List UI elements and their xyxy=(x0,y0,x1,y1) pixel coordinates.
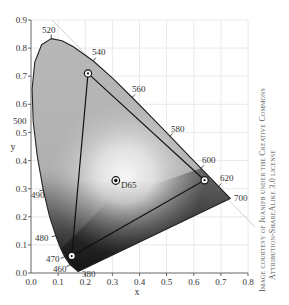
y-tick-0.7: 0.7 xyxy=(16,71,28,81)
y-tick-0.4: 0.4 xyxy=(16,156,28,166)
wavelength-label-490: 490 xyxy=(31,190,45,200)
y-axis-label: y xyxy=(11,141,16,152)
wavelength-label-520: 520 xyxy=(42,25,56,35)
chromaticity-diagram: D65 520 540 560 580 600 620 700 500 490 … xyxy=(0,0,289,305)
x-tick-0.6: 0.6 xyxy=(188,277,200,287)
y-tick-0.2: 0.2 xyxy=(16,212,27,222)
x-tick-0.2: 0.2 xyxy=(80,277,91,287)
x-tick-0.7: 0.7 xyxy=(215,277,227,287)
y-tick-0.1: 0.1 xyxy=(16,240,27,250)
x-axis-label: x xyxy=(135,286,140,297)
x-tick-0.3: 0.3 xyxy=(107,277,119,287)
green-primary-marker xyxy=(84,70,91,77)
d65-label: D65 xyxy=(121,180,137,190)
wavelength-label-460: 460 xyxy=(53,264,67,274)
y-tick-0.5: 0.5 xyxy=(16,128,28,138)
y-tick-0.9: 0.9 xyxy=(16,15,28,25)
blue-primary-marker xyxy=(68,253,75,260)
y-tick-0.8: 0.8 xyxy=(16,43,28,53)
x-axis-tick-labels: 0.0 0.1 0.2 0.3 0.4 0.5 0.6 0.7 0.8 xyxy=(25,277,254,287)
x-tick-0.5: 0.5 xyxy=(161,277,173,287)
image-credit: Image courtesy of Juanifb under the Crea… xyxy=(258,52,278,292)
wavelength-label-560: 560 xyxy=(132,84,146,94)
credit-line-2: Attribution-ShareAlike 3.0 license xyxy=(268,52,278,292)
y-tick-0.3: 0.3 xyxy=(16,184,28,194)
wavelength-label-480: 480 xyxy=(35,233,49,243)
wavelength-label-500: 500 xyxy=(13,116,27,126)
wavelength-label-540: 540 xyxy=(92,47,106,57)
y-tick-0.6: 0.6 xyxy=(16,99,28,109)
wavelength-label-620: 620 xyxy=(220,173,234,183)
x-tick-0.0: 0.0 xyxy=(25,277,37,287)
wavelength-label-600: 600 xyxy=(202,155,216,165)
x-tick-0.1: 0.1 xyxy=(52,277,63,287)
d65-white-point-marker xyxy=(112,177,120,185)
wavelength-label-700: 700 xyxy=(234,193,248,203)
red-primary-marker xyxy=(201,177,208,184)
wavelength-label-470: 470 xyxy=(46,254,60,264)
x-tick-0.8: 0.8 xyxy=(242,277,254,287)
wavelength-label-580: 580 xyxy=(171,124,185,134)
y-axis-tick-labels: 0.0 0.1 0.2 0.3 0.4 0.5 0.6 0.7 0.8 0.9 xyxy=(16,15,28,278)
credit-line-1: Image courtesy of Juanifb under the Crea… xyxy=(258,52,268,292)
